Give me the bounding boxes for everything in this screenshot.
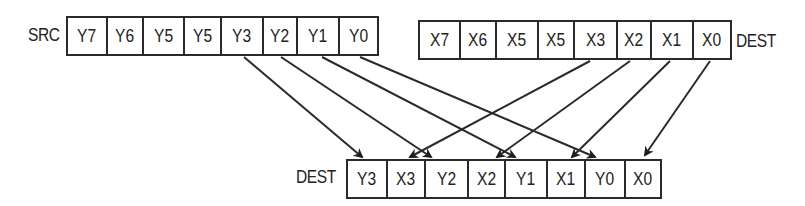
arrow-y0 bbox=[360, 57, 595, 157]
arrow-x1 bbox=[572, 61, 670, 157]
arrows-layer bbox=[0, 0, 805, 206]
arrow-y1 bbox=[322, 57, 515, 157]
